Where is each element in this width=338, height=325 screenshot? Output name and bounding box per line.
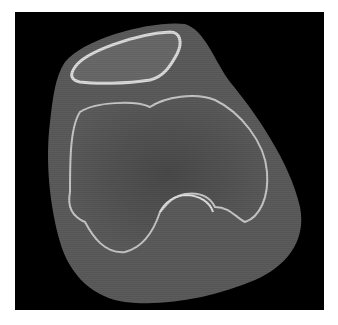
ct-knee-slice	[15, 12, 324, 310]
ct-image-frame	[15, 12, 324, 310]
